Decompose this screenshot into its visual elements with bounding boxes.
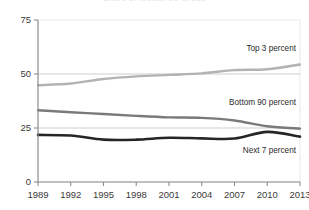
series-label-bottom90: Bottom 90 percent bbox=[229, 98, 297, 107]
x-tick-label-1998: 1998 bbox=[126, 189, 147, 200]
x-tick-label-2004: 2004 bbox=[191, 189, 212, 200]
x-tick-label-2001: 2001 bbox=[158, 189, 179, 200]
y-tick-label-0: 0 bbox=[26, 176, 31, 187]
x-tick-label-1995: 1995 bbox=[93, 189, 114, 200]
y-tickmarks bbox=[34, 20, 38, 182]
chart-canvas: 0255075 19891992199519982001200420072010… bbox=[0, 0, 309, 210]
x-axis-tick-labels: 198919921995199820012004200720102013 bbox=[27, 189, 309, 200]
x-tick-label-2010: 2010 bbox=[257, 189, 278, 200]
chart-title-cutoff: Share of Wealth by Group bbox=[0, 0, 309, 1]
wealth-share-line-chart: Share of Wealth by Group 0255075 1989199… bbox=[0, 0, 309, 210]
series-label-next7: Next 7 percent bbox=[243, 146, 297, 155]
x-tickmarks bbox=[38, 182, 300, 186]
y-tick-label-50: 50 bbox=[20, 68, 31, 79]
y-axis bbox=[34, 20, 38, 182]
x-tick-label-1992: 1992 bbox=[60, 189, 81, 200]
x-tick-label-1989: 1989 bbox=[27, 189, 48, 200]
x-tick-label-2007: 2007 bbox=[224, 189, 245, 200]
y-axis-tick-labels: 0255075 bbox=[20, 14, 31, 187]
x-tick-label-2013: 2013 bbox=[289, 189, 309, 200]
series-label-top3: Top 3 percent bbox=[246, 44, 296, 53]
x-axis bbox=[38, 182, 300, 186]
y-tick-label-25: 25 bbox=[20, 122, 31, 133]
y-tick-label-75: 75 bbox=[20, 14, 31, 25]
